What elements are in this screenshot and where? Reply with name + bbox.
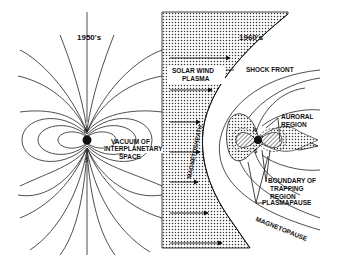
earth-dot-1950s bbox=[83, 136, 92, 145]
vacuum-label-line2: INTERPLANETARY bbox=[104, 146, 163, 153]
pole-south-1950s: S bbox=[85, 158, 88, 163]
earth-dot-1960s bbox=[254, 136, 262, 144]
boundary-label-line1: BOUNDARY OF bbox=[268, 178, 316, 185]
solar-wind-label-line2: PLASMA bbox=[182, 76, 209, 83]
dipole-field-lines bbox=[18, 12, 162, 255]
pole-south-1960s: S bbox=[254, 149, 257, 154]
title-1950s: 1950's bbox=[77, 34, 101, 42]
diagram-canvas bbox=[0, 0, 338, 266]
plasmapause-label: PLASMAPAUSE bbox=[262, 200, 311, 207]
magnetosphere-diagram: 1950's N S VACUUM OF INTERPLANETARY SPAC… bbox=[0, 0, 338, 266]
pole-north-1950s: N bbox=[84, 129, 88, 134]
solar-wind-label-line1: SOLAR WIND bbox=[172, 68, 214, 75]
title-1960s: 1960's bbox=[239, 34, 263, 42]
vacuum-label-line3: SPACE bbox=[119, 154, 141, 161]
auroral-label-line1: AURORAL bbox=[281, 114, 314, 121]
auroral-label-line2: REGION bbox=[281, 122, 307, 129]
pole-north-1960s: N bbox=[253, 128, 257, 133]
shock-front-label: SHOCK FRONT bbox=[246, 67, 294, 74]
boundary-label-line2: TRAPPING bbox=[270, 186, 304, 193]
